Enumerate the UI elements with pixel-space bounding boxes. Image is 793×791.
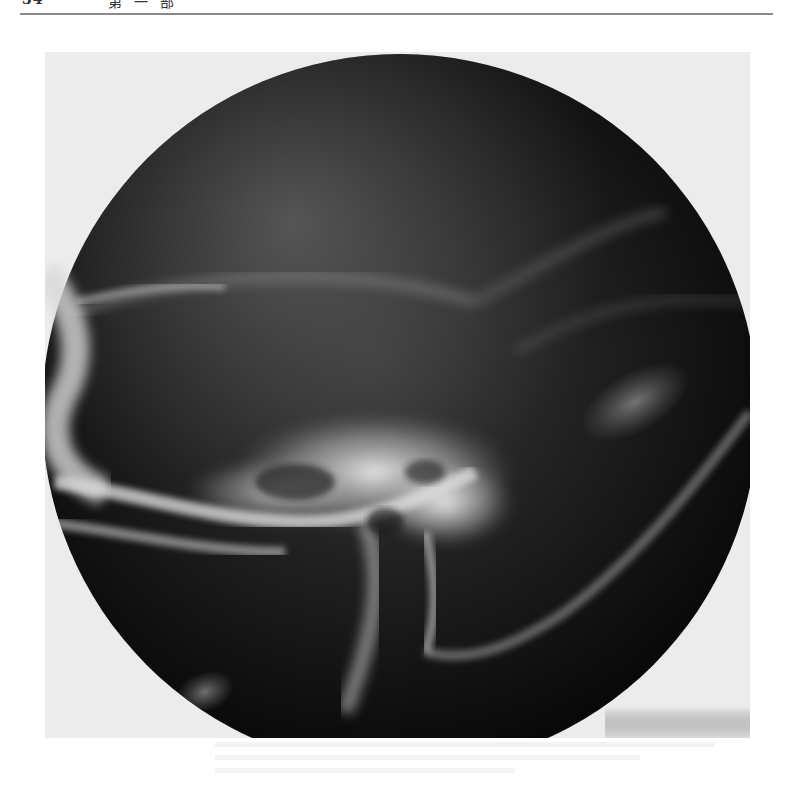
running-head: 34 第一部 — [20, 0, 773, 5]
page-number: 34 — [22, 0, 43, 7]
xray-figure — [45, 52, 750, 738]
section-title: 第一部 — [108, 0, 186, 11]
show-through-text — [215, 742, 715, 782]
xray-image — [45, 52, 750, 738]
header-rule — [20, 13, 773, 15]
